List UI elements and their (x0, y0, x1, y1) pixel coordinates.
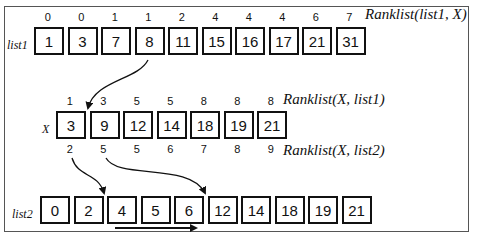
arrow-x-to-list2-second (106, 158, 205, 193)
arrow-list1-to-x (88, 60, 148, 108)
arrows-layer (0, 0, 477, 241)
arrow-x-to-list2-first (72, 158, 104, 193)
